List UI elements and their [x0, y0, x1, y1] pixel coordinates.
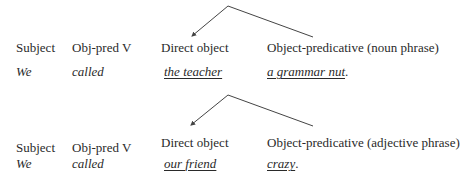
sentence-subject: We — [16, 65, 31, 78]
sentence-object-predicative-wrap: a grammar nut. — [267, 65, 348, 78]
sentence-subject: We — [16, 157, 31, 170]
end-punctuation: . — [345, 64, 348, 79]
sentence-direct-object: the teacher — [164, 65, 222, 78]
label-verb: Obj-pred V — [72, 41, 131, 54]
label-direct-object: Direct object — [161, 41, 229, 54]
sentence-verb: called — [72, 157, 104, 170]
label-object-predicative: Object-predicative (adjective phrase) — [267, 136, 460, 149]
sentence-verb: called — [72, 65, 104, 78]
label-verb: Obj-pred V — [72, 141, 131, 154]
example-2: Subject Obj-pred V Direct object Object-… — [0, 90, 453, 180]
label-subject: Subject — [16, 141, 55, 154]
sentence-object-predicative: a grammar nut — [267, 64, 345, 79]
label-subject: Subject — [16, 41, 55, 54]
sentence-object-predicative: crazy — [267, 156, 295, 171]
end-punctuation: . — [295, 156, 298, 171]
label-direct-object: Direct object — [161, 136, 229, 149]
sentence-direct-object: our friend — [164, 157, 216, 170]
example-1: Subject Obj-pred V Direct object Object-… — [0, 0, 453, 90]
sentence-object-predicative-wrap: crazy. — [267, 157, 298, 170]
label-object-predicative: Object-predicative (noun phrase) — [267, 41, 439, 54]
